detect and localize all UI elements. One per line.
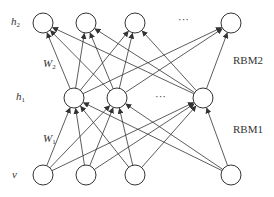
- node-h1: [64, 88, 84, 108]
- edge-h1-h2: [83, 28, 222, 94]
- edge-h1-h2: [142, 31, 196, 91]
- node-v: [76, 165, 96, 185]
- weight-label-w1: W1: [43, 132, 56, 146]
- edge-h1-h2: [125, 29, 222, 93]
- rbm1-label: RBM1: [233, 123, 263, 135]
- node-v: [125, 165, 145, 185]
- edge-h1-h2: [50, 30, 110, 90]
- edge-h1-h2: [95, 29, 195, 93]
- edge-v-h1: [81, 106, 129, 167]
- h2-ellipsis: ···: [178, 13, 189, 25]
- edge-v-h1: [142, 106, 196, 168]
- node-v: [33, 165, 53, 185]
- node-h2: [221, 13, 241, 33]
- h1-ellipsis: ···: [155, 90, 166, 102]
- edge-v-h1: [52, 103, 194, 171]
- weight-label-w2: W2: [43, 57, 56, 71]
- edge-v-h1: [90, 108, 113, 166]
- node-h1: [107, 88, 127, 108]
- edge-v-h1: [94, 104, 194, 170]
- layer-label-h1: h1: [16, 90, 25, 104]
- edge-v-h1: [76, 108, 85, 165]
- layer-label-v: v: [12, 168, 17, 180]
- rbm2-label: RBM2: [233, 54, 263, 66]
- edge-h1-h2: [90, 33, 113, 89]
- edge-v-h1: [207, 108, 228, 166]
- nodes: [33, 13, 241, 185]
- edge-h1-h2: [206, 33, 227, 89]
- network-diagram: [0, 0, 274, 197]
- node-h2: [125, 13, 145, 33]
- edge-v-h1: [126, 104, 223, 170]
- node-h2: [76, 13, 96, 33]
- layer-label-h2: h2: [11, 15, 20, 29]
- edge-v-h1: [119, 108, 132, 165]
- node-h2: [33, 13, 53, 33]
- node-h1: [193, 88, 213, 108]
- edge-h1-h2: [119, 33, 132, 88]
- node-v: [221, 165, 241, 185]
